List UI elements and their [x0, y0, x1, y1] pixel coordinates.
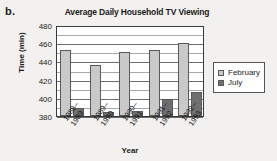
- y-axis-tick-label: 480: [26, 22, 52, 31]
- y-axis-tick-label: 420: [26, 76, 52, 85]
- y-axis-tick-label: 400: [26, 94, 52, 103]
- legend-label: February: [228, 68, 260, 77]
- legend: FebruaryJuly: [213, 62, 265, 93]
- x-axis-title: Year: [56, 146, 204, 155]
- legend-item: July: [218, 78, 260, 87]
- y-axis-tick-labels: 380400420440460480: [26, 26, 52, 117]
- legend-item: February: [218, 68, 260, 77]
- y-axis-tick-label: 440: [26, 58, 52, 67]
- legend-swatch-icon: [218, 70, 224, 76]
- y-axis-tick-label: 380: [26, 113, 52, 122]
- x-axis-tick-labels: 1988–19891989–19901990–19911991–19921992…: [56, 118, 204, 148]
- y-axis-title: Time (min): [17, 23, 26, 83]
- y-axis-tick-label: 460: [26, 40, 52, 49]
- figure-label: b.: [5, 5, 15, 17]
- legend-swatch-icon: [218, 80, 224, 86]
- legend-label: July: [228, 78, 242, 87]
- chart-title: Average Daily Household TV Viewing: [47, 7, 227, 17]
- figure-root: b. Average Daily Household TV Viewing Ti…: [0, 0, 277, 161]
